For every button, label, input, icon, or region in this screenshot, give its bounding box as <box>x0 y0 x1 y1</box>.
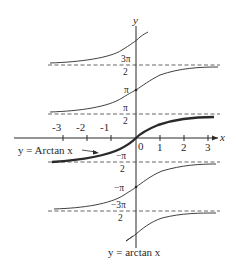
y-mark-negpi2-den: 2 <box>120 164 125 174</box>
x-tick-neg3: -3 <box>52 121 62 133</box>
x-tick-neg2: -2 <box>76 121 85 133</box>
x-axis-arrow-icon <box>212 136 218 141</box>
x-tick-2: 2 <box>181 141 187 153</box>
bottom-leader <box>126 236 133 241</box>
x-tick-0: 0 <box>138 140 144 152</box>
x-tick-labels: -3 -2 -1 0 1 2 3 <box>52 121 211 153</box>
x-axis-label: x <box>219 131 225 143</box>
branch-2pi <box>50 32 148 63</box>
branches <box>50 32 218 241</box>
x-tick-3: 3 <box>205 141 211 153</box>
branch-neg-2pi <box>126 213 216 241</box>
y-mark-pi2-den: 2 <box>123 116 128 126</box>
principal-branch-label: y = Arctan x <box>18 144 73 156</box>
y-mark-3pi-den: 2 <box>123 67 128 77</box>
y-mark-pi2-num: π <box>123 103 128 113</box>
x-tick-1: 1 <box>157 141 163 153</box>
y-mark-negpi: −π <box>114 183 124 193</box>
y-axis-label: y <box>132 14 138 26</box>
diagram-canvas: y x -3 -2 -1 0 1 2 3 3π 2 π π 2 −π 2 −π … <box>0 0 236 274</box>
y-mark-negpi2-num: −π <box>116 151 126 161</box>
multivalued-label: y = arctan x <box>108 246 161 258</box>
arctan-diagram: y x -3 -2 -1 0 1 2 3 3π 2 π π 2 −π 2 −π … <box>0 0 236 274</box>
y-mark-neg3pi2-num: −3π <box>111 200 126 210</box>
branch-pi <box>50 67 218 112</box>
y-mark-neg3pi2-den: 2 <box>118 213 123 223</box>
axes <box>14 26 218 248</box>
y-mark-pi: π <box>124 85 129 95</box>
y-mark-3pi-num: 3π <box>121 54 131 64</box>
annotation-arrow-icon <box>93 150 99 155</box>
point-pi <box>135 89 138 92</box>
x-tick-neg1: -1 <box>100 121 109 133</box>
point-neg-pi <box>135 186 138 189</box>
